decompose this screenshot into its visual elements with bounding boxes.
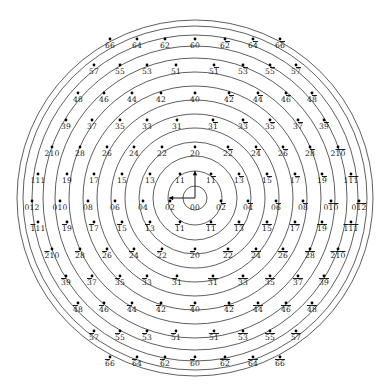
lattice-label-r5-c5: 22 [157, 150, 167, 158]
lattice-label-r8-c2: 19 [62, 225, 72, 233]
lattice-label-r13-c5: 62 [220, 360, 230, 368]
lattice-label-r2-c4: 51 [171, 68, 181, 76]
lattice-label-r10-c3: 35 [115, 279, 125, 287]
lattice-label-r7-c7: 00 [190, 204, 200, 212]
lattice-node-r2-c2 [119, 64, 122, 67]
lattice-node-r3-c2 [103, 92, 106, 95]
lattice-node-r1-c1 [109, 38, 112, 41]
lattice-label-r2-c8: 57 [291, 68, 301, 76]
lattice-label-r7-c13: 012 [351, 204, 366, 212]
basis-vector-left-arrowhead [169, 196, 173, 200]
lattice-label-r4-c1: 39 [61, 123, 71, 131]
lattice-label-r10-c9: 37 [293, 279, 303, 287]
lattice-label-r5-c4: 24 [129, 150, 139, 158]
lattice-label-r11-c6: 42 [224, 306, 234, 314]
lattice-label-r1-c5: 62 [220, 42, 230, 50]
lattice-label-r11-c3: 44 [127, 306, 137, 314]
lattice-label-r6-c12: 111 [343, 177, 358, 185]
lattice-label-r10-c4: 33 [142, 279, 152, 287]
lattice-label-r7-c8: 02 [216, 204, 226, 212]
lattice-label-r5-c8: 24 [251, 150, 261, 158]
lattice-label-r7-c3: 08 [83, 204, 93, 212]
lattice-label-r6-c10: 17 [290, 177, 300, 185]
lattice-label-r13-c3: 62 [160, 360, 170, 368]
lattice-label-r12-c7: 55 [265, 334, 275, 342]
lattice-node-r3-c5 [194, 92, 197, 95]
lattice-label-r4-c5: 31 [172, 123, 182, 131]
lattice-node-r2-c3 [146, 64, 149, 67]
lattice-node-r7-c6 [169, 200, 172, 203]
lattice-label-r7-c5: 04 [138, 204, 148, 212]
lattice-label-r9-c10: 28 [305, 252, 315, 260]
lattice-label-r10-c5: 31 [172, 279, 182, 287]
lattice-node-r2-c4 [175, 64, 178, 67]
lattice-label-r7-c1: 012 [24, 204, 39, 212]
lattice-label-r4-c8: 35 [265, 123, 275, 131]
lattice-node-r8-c1 [37, 221, 40, 224]
lattice-label-r8-c5: 13 [145, 225, 155, 233]
lattice-label-r4-c7: 33 [238, 123, 248, 131]
lattice-label-r6-c7: 11 [206, 177, 216, 185]
lattice-node-r1-c4 [194, 38, 197, 41]
lattice-node-r6-c6 [179, 173, 182, 176]
lattice-label-r3-c2: 46 [99, 96, 109, 104]
lattice-label-r5-c1: 210 [44, 150, 59, 158]
lattice-label-r10-c2: 37 [87, 279, 97, 287]
lattice-label-r9-c11: 210 [330, 252, 345, 260]
lattice-node-r6-c4 [121, 173, 124, 176]
lattice-label-r5-c3: 26 [102, 150, 112, 158]
lattice-node-r6-c5 [149, 173, 152, 176]
lattice-label-r6-c11: 19 [317, 177, 327, 185]
lattice-label-r9-c6: 20 [190, 252, 200, 260]
lattice-label-r3-c6: 42 [224, 96, 234, 104]
lattice-label-r7-c6: 02 [165, 204, 175, 212]
lattice-node-r5-c3 [106, 146, 109, 149]
lattice-label-r5-c6: 20 [190, 150, 200, 158]
lattice-label-r4-c3: 35 [115, 123, 125, 131]
lattice-label-r4-c6: 31 [208, 123, 218, 131]
lattice-label-r7-c11: 08 [298, 204, 308, 212]
lattice-label-r6-c2: 19 [62, 177, 72, 185]
lattice-label-r12-c4: 51 [171, 334, 181, 342]
lattice-label-r9-c1: 210 [44, 252, 59, 260]
lattice-label-r8-c4: 15 [117, 225, 127, 233]
lattice-node-r7-c4 [114, 200, 117, 203]
lattice-label-r6-c8: 13 [234, 177, 244, 185]
lattice-label-r8-c6: 11 [175, 225, 185, 233]
lattice-label-r8-c10: 17 [290, 225, 300, 233]
lattice-label-r12-c6: 53 [238, 334, 248, 342]
lattice-label-r6-c3: 17 [89, 177, 99, 185]
lattice-node-r5-c5 [161, 146, 164, 149]
lattice-label-r1-c2: 64 [132, 42, 142, 50]
lattice-label-r6-c6: 11 [175, 177, 185, 185]
lattice-label-r11-c1: 48 [73, 306, 83, 314]
lattice-label-r4-c2: 37 [87, 123, 97, 131]
lattice-label-r12-c2: 55 [115, 334, 125, 342]
lattice-label-r10-c8: 35 [265, 279, 275, 287]
lattice-label-r9-c4: 24 [129, 252, 139, 260]
lattice-label-r5-c9: 26 [278, 150, 288, 158]
lattice-label-r2-c5: 51 [209, 68, 219, 76]
lattice-node-r6-c2 [66, 173, 69, 176]
lattice-label-r1-c4: 60 [190, 42, 200, 50]
basis-vector-up-arrowhead [193, 171, 197, 175]
lattice-label-r3-c8: 46 [281, 96, 291, 104]
lattice-label-r2-c7: 55 [265, 68, 275, 76]
lattice-label-r10-c1: 39 [61, 279, 71, 287]
lattice-label-r11-c5: 40 [190, 306, 200, 314]
lattice-node-r1-c2 [136, 38, 139, 41]
lattice-label-r9-c3: 26 [102, 252, 112, 260]
lattice-node-r1-c3 [164, 38, 167, 41]
lattice-label-r11-c2: 46 [99, 306, 109, 314]
lattice-node-r3-c3 [131, 92, 134, 95]
lattice-label-r7-c2: 010 [52, 204, 67, 212]
lattice-label-r8-c12: 111 [343, 225, 358, 233]
lattice-node-r4-c4 [146, 119, 149, 122]
lattice-label-r13-c7: 66 [275, 360, 285, 368]
lattice-node-r4-c1 [65, 119, 68, 122]
lattice-label-r7-c10: 06 [271, 204, 281, 212]
lattice-node-r6-c1 [37, 173, 40, 176]
lattice-node-r3-c4 [160, 92, 163, 95]
lattice-label-r5-c2: 28 [75, 150, 85, 158]
lattice-label-r2-c6: 53 [238, 68, 248, 76]
